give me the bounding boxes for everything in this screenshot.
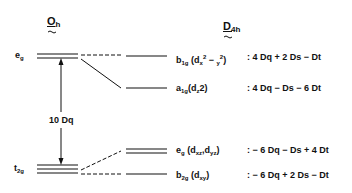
eg-d4h-label: eg (dxz,dyz) [176, 145, 219, 158]
arrow-head-down [59, 158, 64, 165]
eg-d4h-orbital: (d [187, 145, 196, 155]
oh-tilde-icon [48, 31, 56, 33]
eg-sub: g [20, 55, 24, 61]
eg-d4h-sym-sub: g [181, 150, 185, 156]
b2g-sym-sub: 2g [182, 175, 189, 181]
b1g-label: b1g (dx2 − y2) [176, 52, 226, 68]
d4h-header: D4h [223, 21, 240, 35]
a1g-energy: : 4 Dq − Ds − 6 Dt [247, 83, 321, 93]
eg-d4h-orbital-rest: ,d [202, 145, 210, 155]
b1g-energy: : 4 Dq + 2 Ds − Dt [247, 52, 321, 62]
arrow-head-up [59, 58, 64, 65]
d4h-header-main: D [223, 20, 231, 32]
b1g-orbital: (d [191, 55, 200, 65]
d4h-header-sub: 4h [231, 25, 240, 34]
b1g-orbital-sub: x [200, 60, 203, 66]
a1g-orbital: (d [188, 83, 197, 93]
splitting-label: 10 Dq [49, 115, 74, 125]
a1g-orbital-rest: 2) [200, 83, 208, 93]
eg-d4h-energy: : − 6 Dq − Ds + 4 Dt [247, 145, 329, 155]
b2g-energy: : − 6 Dq + 2 Ds − Dt [247, 170, 329, 180]
b2g-orbital: (d [191, 170, 200, 180]
oh-t2g-level [37, 165, 78, 173]
b2g-label: b2g (dxy) [176, 170, 209, 183]
t2g-sub: 2g [17, 168, 24, 174]
oh-eg-label: eg [15, 50, 24, 63]
oh-eg-level [37, 54, 78, 58]
d4h-tilde-icon [224, 36, 232, 38]
oh-t2g-label: t2g [14, 163, 24, 176]
d4h-levels [126, 56, 167, 174]
b1g-sym-sub: 1g [182, 60, 189, 66]
oh-header-sub: h [56, 20, 61, 29]
b2g-orbital-end: ) [206, 170, 209, 180]
correlation-lines [81, 55, 121, 174]
oh-header: Oh [47, 16, 60, 30]
oh-header-main: O [47, 15, 56, 27]
eg-d4h-orbital-end: ) [216, 145, 219, 155]
a1g-sym-sub: 1g [181, 88, 188, 94]
a1g-label: a1g(dz2) [176, 83, 208, 96]
